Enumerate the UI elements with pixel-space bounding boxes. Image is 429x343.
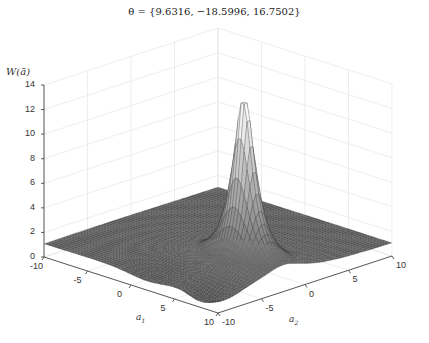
z-tick-label: 0 [30,251,35,261]
z-tick-label: 10 [25,128,35,138]
x-tick-label: 5 [161,303,166,313]
chart-title: θ = {9.6316, −18.5996, 16.7502} [0,6,429,17]
z-tick-label: 8 [30,153,35,163]
surface-plot-figure: θ = {9.6316, −18.5996, 16.7502} W(ā) a1 … [0,0,429,343]
z-tick-label: 4 [30,202,35,212]
x-tick-label: 10 [204,317,214,327]
z-tick-label: 12 [25,104,35,114]
y-axis-label: a2 [289,314,298,326]
z-axis-label: W(ā) [6,66,30,77]
z-tick-label: 14 [25,79,35,89]
y-tick-label: 10 [396,260,406,270]
x-tick-label: -5 [74,275,82,285]
surface-plot-canvas [0,0,429,343]
x-tick-label: -10 [30,261,43,271]
x-axis-label: a1 [136,312,145,324]
y-tick-label: 0 [309,289,314,299]
y-tick-label: 5 [353,274,358,284]
z-tick-label: 2 [30,226,35,236]
z-tick-label: 6 [30,177,35,187]
y-tick-label: -5 [266,303,274,313]
y-tick-label: -10 [222,317,235,327]
x-tick-label: 0 [117,289,122,299]
